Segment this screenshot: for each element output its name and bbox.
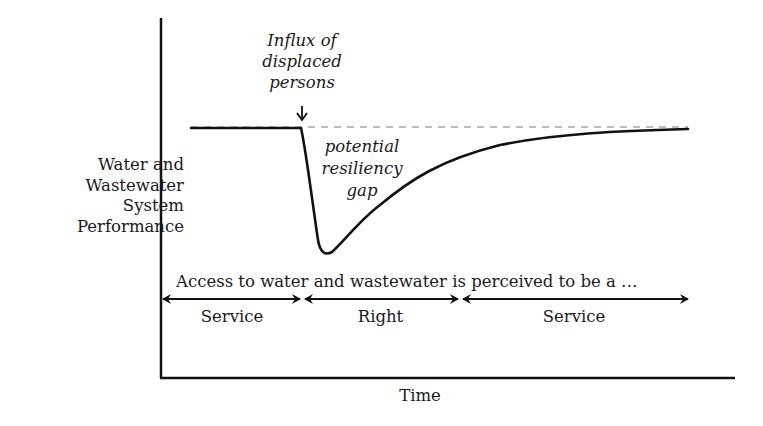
performance-curve: [191, 128, 688, 254]
gap-annotation-line: potential: [302, 136, 422, 158]
access-statement: Access to water and wastewater is percei…: [176, 272, 638, 291]
phase-label-service: Service: [162, 307, 302, 326]
y-axis-label-line: Wastewater: [4, 176, 184, 197]
influx-annotation: Influx of displaced persons: [232, 30, 372, 93]
influx-annotation-line: displaced: [232, 51, 372, 72]
y-axis-label-line: Water and: [4, 155, 184, 176]
gap-annotation-line: resiliency: [302, 158, 422, 180]
influx-annotation-line: persons: [232, 72, 372, 93]
gap-annotation-line: gap: [302, 180, 422, 202]
resiliency-gap-annotation: potential resiliency gap: [302, 136, 422, 202]
phase-label-right: Right: [303, 307, 458, 326]
phase-label-service-2: Service: [460, 307, 688, 326]
y-axis-label-line: Performance: [4, 217, 184, 238]
x-axis-label: Time: [370, 386, 470, 405]
y-axis-label: Water and Wastewater System Performance: [4, 155, 184, 237]
influx-annotation-line: Influx of: [232, 30, 372, 51]
resiliency-diagram: Water and Wastewater System Performance …: [0, 0, 763, 426]
y-axis-label-line: System: [4, 196, 184, 217]
